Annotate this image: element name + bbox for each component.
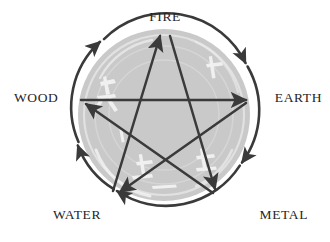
five-elements-diagram <box>0 0 330 242</box>
node-label-fire: FIRE <box>0 10 330 24</box>
node-label-metal: METAL <box>260 208 308 222</box>
node-label-wood: WOOD <box>14 91 58 105</box>
node-label-earth: EARTH <box>275 91 322 105</box>
node-label-water: WATER <box>53 208 101 222</box>
